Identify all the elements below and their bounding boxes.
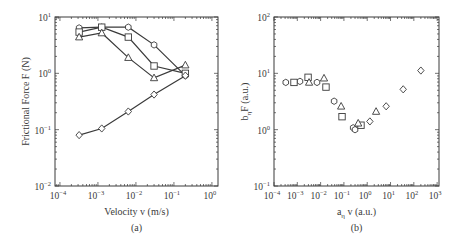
figure: 10−410−310−210−110010−210−1100101Velocit… bbox=[0, 0, 465, 248]
panel-caption: (a) bbox=[131, 222, 142, 234]
hexagon-marker bbox=[151, 42, 157, 48]
plot-frame bbox=[55, 17, 218, 186]
square-marker bbox=[125, 34, 131, 40]
square-marker bbox=[323, 84, 329, 90]
plot-frame bbox=[274, 17, 439, 186]
y-tick-label: 100 bbox=[257, 124, 270, 136]
diamond-marker bbox=[151, 91, 157, 98]
y-tick-label: 100 bbox=[38, 67, 51, 79]
x-axis-ticks bbox=[274, 17, 437, 186]
hexagon-marker bbox=[283, 79, 289, 85]
series-triangle bbox=[76, 29, 189, 80]
panel-b-scaled-master-curve: 10−410−310−210−110010110210310−110010110… bbox=[239, 11, 442, 234]
y-tick-labels: 10−210−1100101 bbox=[35, 11, 51, 192]
x-tick-labels: 10−410−310−210−1100101102103 bbox=[264, 189, 442, 201]
y-tick-label: 101 bbox=[257, 67, 270, 79]
diamond-marker bbox=[125, 108, 131, 115]
triangle-marker bbox=[338, 102, 345, 109]
x-tick-label: 10−3 bbox=[287, 189, 303, 201]
hexagon-marker bbox=[126, 24, 132, 30]
series-square bbox=[76, 24, 189, 77]
diamond-marker bbox=[76, 132, 82, 139]
x-tick-label: 10−3 bbox=[88, 189, 104, 201]
hexagon-marker bbox=[314, 79, 320, 85]
x-tick-label: 101 bbox=[382, 189, 395, 201]
x-axis-label: aη v (a.u.) bbox=[337, 206, 376, 220]
data-series bbox=[76, 24, 189, 139]
chart-canvas: 10−410−310−210−110010−210−1100101Velocit… bbox=[0, 0, 465, 248]
panel-caption: (b) bbox=[351, 222, 363, 234]
triangle-marker bbox=[372, 108, 379, 115]
square-marker bbox=[339, 113, 345, 119]
y-axis-ticks bbox=[55, 17, 218, 186]
series-line bbox=[79, 33, 185, 78]
series-diamond bbox=[76, 72, 189, 139]
hexagon-marker bbox=[352, 126, 358, 132]
hexagon-marker bbox=[331, 98, 337, 104]
x-tick-label: 100 bbox=[359, 189, 372, 201]
data-series bbox=[283, 67, 424, 133]
series-hexagon bbox=[283, 78, 358, 133]
x-tick-labels: 10−410−310−210−1100 bbox=[50, 189, 217, 201]
diamond-marker bbox=[367, 118, 373, 125]
y-axis-label: bηF (a.u.) bbox=[239, 83, 253, 121]
diamond-marker bbox=[99, 125, 105, 132]
y-tick-labels: 10−1100101102 bbox=[254, 11, 270, 192]
diamond-marker bbox=[400, 86, 406, 93]
x-tick-label: 10−1 bbox=[334, 189, 350, 201]
x-axis-label: Velocity v (m/s) bbox=[104, 206, 168, 218]
series-diamond bbox=[367, 67, 424, 125]
x-tick-label: 10−2 bbox=[126, 189, 142, 201]
triangle-marker bbox=[320, 74, 327, 81]
x-tick-label: 103 bbox=[429, 189, 442, 201]
x-tick-label: 100 bbox=[204, 189, 217, 201]
y-tick-label: 102 bbox=[257, 11, 270, 23]
x-tick-label: 10−4 bbox=[264, 189, 281, 201]
square-marker bbox=[291, 79, 297, 85]
y-tick-label: 10−1 bbox=[35, 124, 51, 136]
series-line bbox=[79, 76, 185, 135]
diamond-marker bbox=[418, 67, 424, 74]
diamond-marker bbox=[383, 103, 389, 110]
triangle-marker bbox=[182, 61, 189, 68]
x-tick-label: 102 bbox=[405, 189, 418, 201]
square-marker bbox=[151, 63, 157, 69]
x-tick-label: 10−4 bbox=[50, 189, 67, 201]
hexagon-marker bbox=[297, 78, 303, 84]
y-axis-ticks bbox=[274, 17, 439, 186]
y-axis-label: Frictional Force F (N) bbox=[20, 57, 32, 146]
x-axis-ticks bbox=[56, 17, 212, 186]
x-tick-label: 10−1 bbox=[164, 189, 180, 201]
panel-a-friction-vs-velocity: 10−410−310−210−110010−210−1100101Velocit… bbox=[20, 11, 218, 234]
x-tick-label: 10−2 bbox=[310, 189, 326, 201]
y-tick-label: 10−2 bbox=[35, 180, 51, 192]
y-tick-label: 101 bbox=[38, 11, 51, 23]
